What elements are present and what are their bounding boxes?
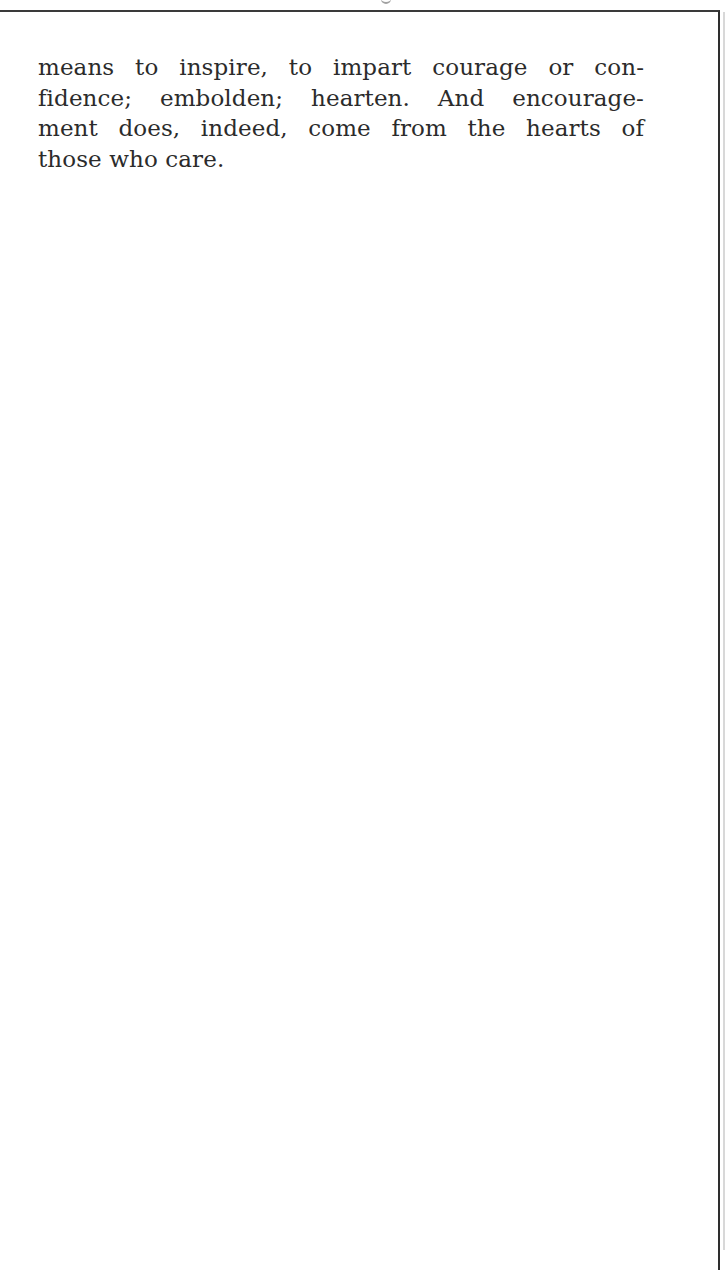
paragraph-line-2: fidence; embolden; hearten. And encourag… (38, 83, 644, 114)
body-paragraph: means to inspire, to impart courage or c… (38, 52, 644, 174)
paragraph-line-4: those who care. (38, 144, 644, 175)
paragraph-line-3: ment does, indeed, come from the hearts … (38, 113, 644, 144)
page-frame (0, 10, 720, 1270)
page-edge-shadow (723, 12, 725, 1250)
paragraph-line-1: means to inspire, to impart courage or c… (38, 52, 644, 83)
cropped-header-glyph (381, 0, 391, 4)
